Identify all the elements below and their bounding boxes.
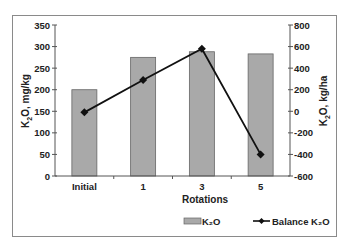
x-axis: Initial135 bbox=[55, 176, 290, 192]
left-tick-label: 200 bbox=[34, 84, 50, 95]
x-tick-label: 3 bbox=[199, 181, 204, 192]
left-tick-label: 250 bbox=[34, 63, 50, 74]
left-tick-label: 50 bbox=[39, 149, 50, 160]
right-tick-label: 200 bbox=[294, 84, 310, 95]
bar bbox=[72, 90, 97, 176]
left-axis-title: K2O, mg/kg bbox=[20, 74, 33, 128]
x-tick-label: Initial bbox=[72, 181, 97, 192]
right-tick-label: -200 bbox=[294, 127, 313, 138]
x-tick-label: 5 bbox=[258, 181, 264, 192]
legend: K₂O Balance K₂O bbox=[184, 216, 330, 227]
left-tick-label: 0 bbox=[45, 171, 50, 182]
right-tick-label: 800 bbox=[294, 20, 310, 31]
right-tick-label: -600 bbox=[294, 171, 313, 182]
legend-bar-label: K₂O bbox=[202, 216, 220, 227]
legend-bar-swatch bbox=[184, 218, 201, 224]
right-tick-label: -400 bbox=[294, 149, 313, 160]
legend-diamond-icon bbox=[259, 218, 265, 224]
bar-series-k2o bbox=[72, 52, 273, 176]
right-tick-label: 600 bbox=[294, 41, 310, 52]
x-axis-title: Rotations bbox=[182, 194, 229, 205]
left-tick-label: 100 bbox=[34, 127, 50, 138]
right-tick-label: 0 bbox=[294, 106, 299, 117]
right-tick-label: 400 bbox=[294, 63, 310, 74]
right-axis-title: K2O, kg/ha bbox=[318, 75, 331, 126]
bar bbox=[189, 52, 214, 176]
right-y-axis: -600-400-2000200400600800 bbox=[288, 20, 313, 182]
left-tick-label: 150 bbox=[34, 106, 50, 117]
left-tick-label: 350 bbox=[34, 20, 50, 31]
left-tick-label: 300 bbox=[34, 41, 50, 52]
left-y-axis: 050100150200250300350 bbox=[34, 20, 57, 182]
x-tick-label: 1 bbox=[140, 181, 146, 192]
line-series-balance-k2o bbox=[80, 45, 264, 159]
legend-line-label: Balance K₂O bbox=[272, 216, 330, 227]
combo-chart: 050100150200250300350 -600-400-200020040… bbox=[0, 0, 349, 248]
